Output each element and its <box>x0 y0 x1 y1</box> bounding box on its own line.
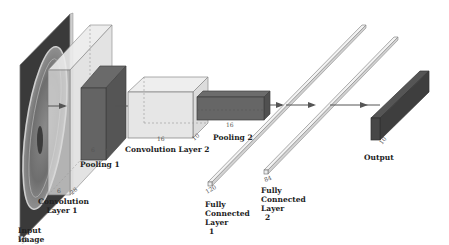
fc1-label-line-3: Layer <box>205 218 250 227</box>
fc2-label-line-1: Fully <box>261 186 306 195</box>
conv-layer-1-label: Convolution Layer 1 <box>38 197 86 215</box>
pool2-dim-depth: 16 <box>226 121 234 128</box>
conv-layer-2-label: Convolution Layer 2 <box>125 145 210 154</box>
output-label: Output <box>364 153 394 162</box>
fc2-label-line-4: 2 <box>261 213 306 222</box>
fully-connected-layer-2-label: Fully Connected Layer 2 <box>261 186 306 222</box>
fc2-dim-label: 84 <box>263 174 273 183</box>
pool2-label-line-1: Pooling 2 <box>213 133 253 142</box>
fc1-label-line-1: Fully <box>205 200 250 209</box>
fully-connected-layer-1-label: Fully Connected Layer 1 <box>205 200 250 236</box>
pooling-2-label: Pooling 2 <box>213 133 253 142</box>
pool1-label-line-1: Pooling 1 <box>80 160 120 169</box>
fc1-label-line-2: Connected <box>205 209 250 218</box>
fc2-label-line-3: Layer <box>261 204 306 213</box>
pooling-1-block <box>81 66 126 160</box>
fc1-dim-label: 120 <box>204 183 218 195</box>
input-image-label: Input Image <box>18 226 44 244</box>
conv1-label-line-1: Convolution <box>38 197 86 206</box>
conv2-dim-depth: 16 <box>157 135 165 142</box>
fc2-label-line-2: Connected <box>261 195 306 204</box>
conv1-label-line-2: Layer 1 <box>38 206 86 215</box>
output-label-line-1: Output <box>364 153 394 162</box>
pooling-2-block <box>197 91 270 120</box>
pooling-1-label: Pooling 1 <box>80 160 120 169</box>
pool1-dim-depth: 6 <box>91 146 95 153</box>
fc1-label-line-4: 1 <box>205 227 250 236</box>
conv-layer-2-block <box>128 77 208 138</box>
conv2-label-line-1: Convolution Layer 2 <box>125 145 210 154</box>
input-label-line-1: Input <box>18 226 44 235</box>
input-label-line-2: Image <box>18 235 44 244</box>
conv1-dim-depth: 6 <box>57 187 61 194</box>
